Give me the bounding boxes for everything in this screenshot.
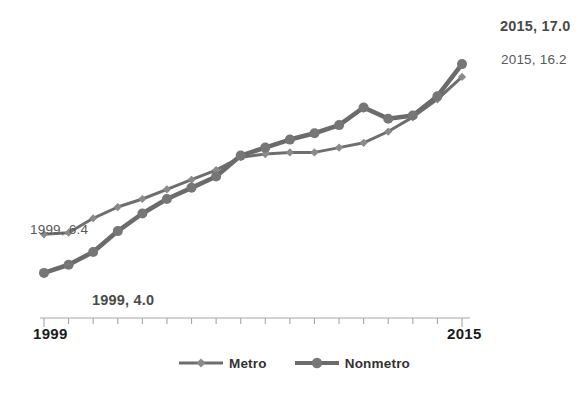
legend-item-metro[interactable]: Metro: [177, 355, 267, 371]
annotation-nonmetro-start: 1999, 4.0: [92, 292, 154, 308]
annotation-metro-end: 2015, 16.2: [501, 52, 567, 67]
annotation-metro-start: 1999, 6.4: [30, 222, 88, 237]
legend-label-metro: Metro: [229, 356, 267, 371]
legend-marker-nonmetro-icon: [293, 355, 341, 371]
chart-legend: Metro Nonmetro: [0, 355, 587, 371]
legend-label-nonmetro: Nonmetro: [345, 356, 410, 371]
annotation-nonmetro-end: 2015, 17.0: [500, 18, 571, 34]
x-axis: [40, 318, 470, 327]
line-chart: 2015, 17.0 2015, 16.2 1999, 6.4 1999, 4.…: [0, 0, 587, 397]
series-metro: [40, 73, 466, 239]
chart-plot-area: [0, 0, 587, 397]
series-nonmetro: [39, 59, 467, 278]
legend-item-nonmetro[interactable]: Nonmetro: [293, 355, 410, 371]
x-axis-label-end: 2015: [447, 325, 482, 342]
legend-marker-metro-icon: [177, 355, 225, 371]
x-axis-label-start: 1999: [33, 325, 68, 342]
